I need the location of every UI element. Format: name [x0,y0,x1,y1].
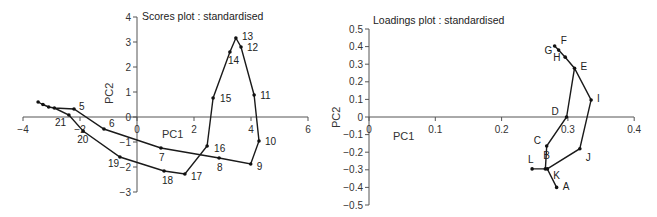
point-label-A: A [563,181,570,192]
point-label-19: 19 [108,158,120,169]
loadings-y-ticks: −0.5−0.4−0.3−0.2−0.100.10.20.30.40.5 [343,24,369,211]
x-tick-label: 0.2 [495,124,509,135]
point-label-B: B [543,150,550,161]
data-point-10 [257,139,261,143]
data-point-H [563,55,567,59]
point-label-K: K [553,170,560,181]
data-point-D [565,115,569,119]
point-label-13: 13 [242,31,254,42]
data-point-1 [36,100,40,104]
point-label-6: 6 [109,118,115,129]
point-label-10: 10 [265,136,277,147]
y-tick-label: 0 [125,112,131,123]
data-point-L [530,167,534,171]
point-label-18: 18 [162,175,174,186]
x-tick-label: 0 [134,124,140,135]
data-point-A [555,186,559,190]
data-point-F [553,44,557,48]
x-tick-label: 0 [366,124,372,135]
data-point-13 [234,36,238,40]
point-label-H: H [553,52,560,63]
data-point-6 [102,127,106,131]
y-tick-label: −2 [120,162,132,173]
y-tick-label: −0.4 [343,182,363,193]
data-point-12 [239,45,243,49]
point-label-E: E [581,61,588,72]
point-label-9: 9 [257,161,263,172]
x-tick-label: −4 [17,124,29,135]
y-tick-label: −0.3 [343,164,363,175]
point-label-5: 5 [79,101,85,112]
data-point-17 [183,172,187,176]
point-label-7: 7 [159,152,165,163]
loadings-title: Loadings plot : standardised [373,14,505,26]
data-point-18 [162,169,166,173]
y-tick-label: 0.5 [349,24,363,35]
data-point-16 [205,144,209,148]
point-label-8: 8 [217,162,223,173]
y-tick-label: 0.4 [349,41,363,52]
point-label-I: I [597,93,600,104]
data-point-2 [41,103,45,107]
y-tick-label: 4 [125,12,131,23]
point-label-12: 12 [247,42,259,53]
y-tick-label: 0.2 [349,76,363,87]
y-tick-label: 0 [357,112,363,123]
data-point-3 [47,105,51,109]
figure: −4−20246 −3−2−101234 Scores plot : stand… [0,0,657,217]
data-point-5 [72,107,76,111]
point-label-F: F [561,35,567,46]
data-point-11 [252,93,256,97]
scores-x-label: PC1 [162,128,183,140]
loadings-y-label: PC2 [330,107,342,128]
point-label-14: 14 [228,55,240,66]
x-tick-label: 0.4 [627,124,641,135]
scores-y-ticks: −3−2−101234 [120,12,137,198]
data-point-7 [159,146,163,150]
point-label-J: J [586,152,591,163]
data-point-4 [53,106,57,110]
y-tick-label: −3 [120,187,132,198]
data-point-9 [249,162,253,166]
scores-title: Scores plot : standardised [142,10,264,22]
point-label-C: C [534,135,541,146]
scores-y-label: PC2 [103,83,115,104]
point-label-D: D [552,106,559,117]
x-tick-label: 2 [191,124,197,135]
data-point-J [578,147,582,151]
data-point-21 [67,113,71,117]
data-point-20 [81,129,85,133]
point-label-15: 15 [220,93,232,104]
data-point-I [589,98,593,102]
point-label-L: L [528,154,534,165]
y-tick-label: −0.1 [343,129,363,140]
scores-series-line [38,38,259,174]
data-point-14 [228,50,232,54]
data-point-C [545,144,549,148]
x-tick-label: 0.3 [561,124,575,135]
y-tick-label: −0.5 [343,200,363,211]
y-tick-label: −0.2 [343,147,363,158]
y-tick-label: 3 [125,37,131,48]
point-label-21: 21 [55,117,67,128]
x-tick-label: 4 [248,124,254,135]
point-label-16: 16 [214,143,226,154]
loadings-plot: 00.10.20.30.4 −0.5−0.4−0.3−0.2−0.100.10.… [330,14,642,211]
point-label-11: 11 [260,90,271,101]
y-tick-label: 1 [125,87,131,98]
point-label-G: G [545,45,553,56]
point-label-20: 20 [77,134,89,145]
loadings-x-label: PC1 [393,130,414,142]
y-tick-label: 2 [125,62,131,73]
point-label-17: 17 [191,171,203,182]
data-point-E [573,66,577,70]
y-tick-label: 0.1 [349,94,363,105]
scores-plot: −4−20246 −3−2−101234 Scores plot : stand… [17,10,311,198]
data-point-K [546,167,550,171]
x-tick-label: 6 [305,124,311,135]
data-point-8 [217,156,221,160]
y-tick-label: 0.3 [349,59,363,70]
x-tick-label: 0.1 [428,124,442,135]
data-point-15 [211,96,215,100]
